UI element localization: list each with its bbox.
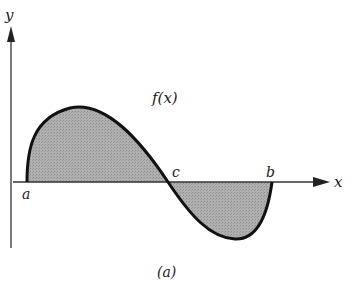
point-c-label: c bbox=[172, 164, 180, 180]
figure-caption: (a) bbox=[157, 264, 176, 280]
y-axis-arrow-icon bbox=[7, 26, 15, 42]
point-a-label: a bbox=[22, 186, 30, 202]
function-label: f(x) bbox=[151, 89, 178, 107]
diagram-canvas: y x f(x) a c b (a) bbox=[0, 0, 350, 299]
x-axis-arrow-icon bbox=[313, 177, 330, 187]
point-b-label: b bbox=[266, 164, 275, 180]
x-axis-label: x bbox=[334, 173, 343, 191]
y-axis-label: y bbox=[4, 6, 14, 24]
